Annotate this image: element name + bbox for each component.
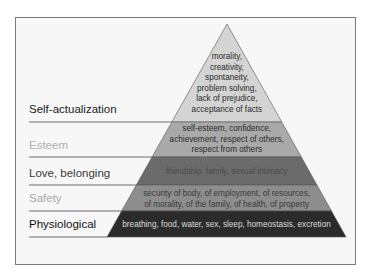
level-label: Safety: [29, 192, 62, 204]
maslow-pyramid: morality,creativity,spontaneity,problem …: [0, 0, 372, 279]
level-label: Self-actualization: [29, 103, 117, 115]
level-label: Esteem: [29, 139, 68, 151]
level-label: Love, belonging: [29, 167, 110, 179]
level-description-line: creativity,: [210, 63, 244, 72]
level-description-line: spontaneity,: [205, 73, 249, 82]
pyramid-level-safety: security of body, of employment, of reso…: [29, 185, 331, 211]
level-description-line: lack of prejudice,: [196, 94, 257, 103]
pyramid-level-love-belonging: friendship, family, sexual intimacyLove,…: [29, 157, 317, 185]
level-description-line: breathing, food, water, sex, sleep, home…: [122, 220, 331, 229]
level-description-line: achievement, respect of others,: [170, 135, 284, 144]
level-description-line: of morality, of the family, of health, o…: [144, 200, 310, 209]
level-description-line: friendship, family, sexual intimacy: [166, 167, 288, 176]
level-description-line: respect from others: [191, 145, 262, 154]
level-description-line: acceptance of facts: [192, 105, 263, 114]
level-description-line: self-esteem, confidence,: [182, 124, 271, 133]
level-label: Physiological: [29, 218, 96, 230]
level-description-line: security of body, of employment, of reso…: [143, 189, 310, 198]
pyramid-level-esteem: self-esteem, confidence,achievement, res…: [29, 122, 301, 157]
pyramid-level-self-actualization: morality,creativity,spontaneity,problem …: [29, 24, 282, 122]
level-description-line: problem solving,: [197, 84, 257, 93]
level-description-line: morality,: [212, 52, 242, 61]
pyramid-level-physiological: breathing, food, water, sex, sleep, home…: [29, 211, 346, 237]
